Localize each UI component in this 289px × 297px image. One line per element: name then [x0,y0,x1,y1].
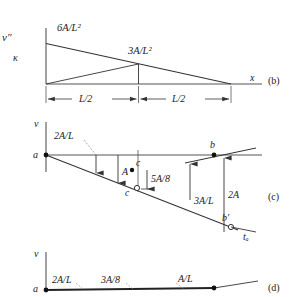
panel-c-offset-2A-label: 2A [228,189,240,200]
panel-b-y-axis-secondary-label: κ [13,52,18,63]
panel-c-point-c-lower-label: c [125,188,130,198]
panel-c-tag: (c) [268,191,279,203]
panel-d-label-1: 2A/L [52,274,72,285]
panel-b: v″ κ 6A/L² 3A/L² x (b) L/2 L/2 [2,22,280,104]
panel-c-point-c-upper-label: c [136,158,141,168]
panel-b-mid-label: 3A/L² [127,45,152,56]
panel-d-label-3: A/L [177,273,193,284]
panel-c-tangent-at-a [46,155,238,230]
panel-d-tangent-extension [214,281,258,288]
panel-d-deflection-curve [46,288,214,290]
panel-d: a 2A/L 3A/8 A/L v (d) [33,248,280,294]
panel-b-y-axis-primary-label: v″ [2,31,12,43]
panel-c-point-c-upper-marker [130,168,134,172]
panel-c-slope-b-label: 3A/L [193,195,214,206]
panel-b-dim-left-label: L/2 [78,93,92,104]
beam-diagram-figure: v″ κ 6A/L² 3A/L² x (b) L/2 L/2 a b [0,0,289,297]
panel-d-point-b-marker [212,286,217,291]
panel-c-offset-5A8-label: 5A/8 [151,173,170,184]
panel-b-lower-line [46,64,139,84]
panel-c-point-a-marker [44,153,49,158]
panel-c: a b b′ tₐ 2A/L A c c 5A/8 3A/L 2A [33,118,279,242]
panel-d-point-a-marker [44,288,49,293]
panel-c-point-c-lower-marker [134,185,139,190]
panel-c-tangent-a-label: tₐ [243,231,249,242]
panel-c-point-b-prime-label: b′ [222,212,230,223]
panel-b-x-axis-label: x [249,72,255,83]
panel-d-point-a-label: a [33,283,38,294]
panel-c-y-axis-label: v [34,118,39,129]
panel-b-tag: (b) [268,75,280,87]
panel-c-point-b-label: b [210,139,215,150]
panel-c-slope-a-label: 2A/L [54,130,74,141]
panel-d-label-2: 3A/8 [100,274,120,285]
panel-c-point-a-label: a [33,149,38,160]
panel-d-tag: (d) [268,282,280,294]
panel-b-dim-right-label: L/2 [171,93,185,104]
panel-d-y-axis-label: v [34,248,39,259]
panel-b-peak-label: 6A/L² [57,22,81,33]
panel-c-slope-a-leader [84,140,96,155]
panel-c-point-b-marker [212,153,217,158]
panel-c-offset-A-label: A [121,166,129,177]
